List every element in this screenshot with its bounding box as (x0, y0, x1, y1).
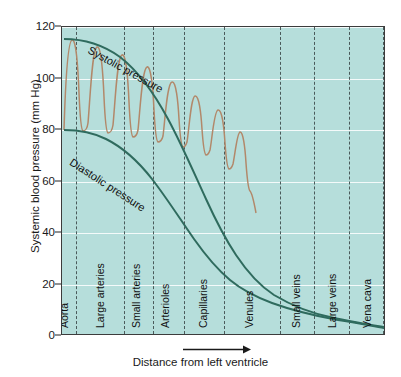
vessel-label-venules: Venules (243, 291, 255, 328)
vessel-label-arterioles: Arterioles (159, 284, 171, 328)
blood-pressure-chart: Systemic blood pressure (mm Hg) 120 100 … (0, 0, 401, 377)
y-tick-label: 40 (29, 226, 55, 238)
vessel-label-large-arteries: Large arteries (94, 263, 106, 328)
y-axis-ticks: 120 100 80 60 40 20 0 (22, 0, 55, 377)
plot-area: Systolic pressure Diastolic pressure Aor… (61, 26, 385, 335)
y-tick-label: 60 (29, 175, 55, 187)
direction-arrow-icon (183, 345, 251, 354)
vessel-label-small-veins: Small veins (290, 274, 302, 328)
y-tick-label: 100 (29, 72, 55, 84)
y-tick-label: 20 (29, 278, 55, 290)
vessel-label-small-arteries: Small arteries (130, 264, 142, 328)
vessel-label-aorta: Aorta (61, 303, 70, 328)
y-tick-label: 120 (29, 20, 55, 32)
vessel-label-capillaries: Capillaries (197, 279, 209, 328)
x-axis-title: Distance from left ventricle (0, 356, 401, 368)
vessel-label-vena-cava: Vena cava (361, 279, 373, 328)
y-tick-label: 0 (29, 329, 55, 341)
y-tick-label: 80 (29, 123, 55, 135)
pulse-wave-path (64, 40, 256, 213)
vessel-label-large-veins: Large veins (326, 274, 338, 328)
